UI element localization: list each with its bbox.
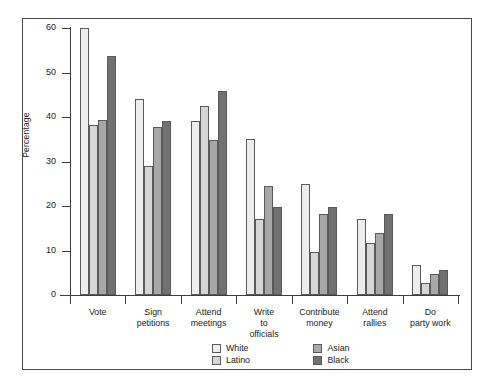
legend-swatch [313, 356, 322, 365]
bar [357, 219, 366, 295]
bar [218, 91, 227, 295]
x-tick-mark [347, 296, 348, 304]
bar [439, 270, 448, 295]
x-tick-mark [403, 296, 404, 304]
bar [319, 214, 328, 295]
bar [430, 274, 439, 295]
bar-group [244, 28, 284, 295]
y-tick-mark [62, 251, 71, 252]
legend-label: Latino [226, 355, 250, 365]
legend-swatch [313, 344, 322, 353]
x-category-label-line: officials [225, 329, 303, 340]
legend-swatch [212, 344, 221, 353]
bar-group [78, 28, 118, 295]
x-axis-line [60, 295, 460, 296]
legend-item: Black [313, 355, 387, 365]
bar [328, 207, 337, 295]
x-category-label-line: Do [391, 307, 469, 318]
x-tick-mark [236, 296, 237, 304]
bar [200, 106, 209, 295]
x-category-label-line: party work [391, 318, 469, 329]
y-tick-label: 30 [22, 156, 56, 166]
bar [80, 28, 89, 295]
y-tick-label: 10 [22, 245, 56, 255]
bar-group [299, 28, 339, 295]
y-tick-label: 40 [22, 111, 56, 121]
bar [246, 139, 255, 295]
bar [301, 184, 310, 295]
y-tick-label: 60 [22, 22, 56, 32]
bar [384, 214, 393, 295]
y-tick-label: 0 [22, 289, 56, 299]
y-tick-label: 20 [22, 200, 56, 210]
bar [310, 252, 319, 295]
chart-figure: Percentage 0102030405060 VoteSignpetitio… [0, 0, 489, 388]
legend-label: Black [327, 355, 349, 365]
y-tick-mark [62, 206, 71, 207]
y-tick-mark [62, 28, 71, 29]
x-tick-mark [458, 296, 459, 304]
x-tick-mark [70, 296, 71, 304]
bar [89, 125, 98, 295]
bar [264, 186, 273, 295]
y-tick-mark [62, 117, 71, 118]
y-tick-mark [62, 162, 71, 163]
legend-item: Asian [313, 343, 387, 353]
legend-label: Asian [327, 343, 349, 353]
bar-group [355, 28, 395, 295]
x-tick-mark [125, 296, 126, 304]
x-tick-mark [181, 296, 182, 304]
bar [144, 166, 153, 295]
y-axis-title: Percentage [21, 90, 31, 180]
legend-item: White [212, 343, 287, 353]
legend-item: Latino [212, 355, 287, 365]
chart-legend: WhiteAsianLatinoBlack [212, 343, 387, 365]
bar [162, 121, 171, 295]
bar [412, 265, 421, 295]
bar [366, 243, 375, 296]
legend-label: White [226, 343, 249, 353]
bar [107, 56, 116, 295]
bar-group [133, 28, 173, 295]
bar [135, 99, 144, 295]
bar [421, 283, 430, 295]
y-tick-label: 50 [22, 67, 56, 77]
y-tick-mark [62, 73, 71, 74]
x-tick-mark [292, 296, 293, 304]
bar [153, 127, 162, 295]
bar [191, 121, 200, 295]
x-category-label: Doparty work [391, 307, 469, 329]
bar [255, 219, 264, 295]
bar [98, 120, 107, 295]
bar-group [410, 28, 450, 295]
bar [375, 233, 384, 295]
legend-swatch [212, 356, 221, 365]
bar [209, 140, 218, 295]
bar [273, 207, 282, 295]
bar-group [189, 28, 229, 295]
